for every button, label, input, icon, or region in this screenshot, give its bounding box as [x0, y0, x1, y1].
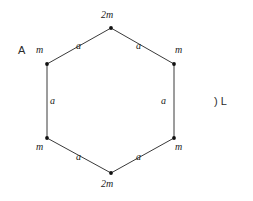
length-label-edge-left: a	[50, 96, 55, 106]
right-marker-label: ) L	[214, 96, 227, 107]
length-label-edge-right: a	[161, 96, 166, 106]
length-label-edge-top-left: a	[76, 41, 81, 51]
mass-label-bottom: 2m	[101, 179, 113, 189]
vertex-dot-top-left	[45, 62, 49, 66]
vertex-dot-bottom-left	[45, 136, 49, 140]
vertex-dot-top	[109, 26, 113, 30]
mass-label-bottom-right: m	[175, 142, 182, 152]
mass-label-top-right: m	[175, 45, 182, 55]
diagram-canvas: 2mmm2mmm aaaaaa A ) L	[0, 0, 253, 201]
mass-label-top: 2m	[101, 10, 113, 20]
length-label-edge-top-right: a	[136, 41, 141, 51]
length-label-edge-bottom-left: a	[76, 152, 81, 162]
hexagon-outline	[47, 28, 174, 173]
mass-label-bottom-left: m	[36, 142, 43, 152]
vertex-markers	[45, 26, 176, 175]
vertex-dot-top-right	[172, 62, 176, 66]
mass-label-top-left: m	[36, 45, 43, 55]
vertex-dot-bottom-right	[172, 136, 176, 140]
left-marker-label: A	[18, 45, 25, 56]
vertex-dot-bottom	[109, 171, 113, 175]
length-label-edge-bottom-right: a	[136, 152, 141, 162]
